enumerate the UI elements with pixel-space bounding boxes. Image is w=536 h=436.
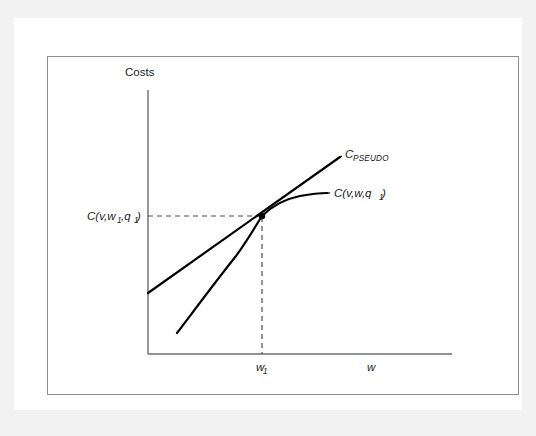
y-tick-label-cost-value: C(v,w 1 ,q 1 ) xyxy=(87,210,141,225)
pseudo-label-leader xyxy=(340,156,342,157)
long-run-cost-curve-label: C(v,w,q 1 ) xyxy=(334,187,386,202)
y-tick-label-middle: ,q xyxy=(121,210,131,222)
pseudo-cost-line xyxy=(148,157,340,293)
axes-group xyxy=(148,90,452,354)
cost-label-main: C(v,w,q xyxy=(334,187,372,199)
tangency-point-marker xyxy=(259,213,266,220)
x-axis-title: w xyxy=(367,361,376,373)
pseudo-label-subscript: PSEUDO xyxy=(353,154,389,163)
y-axis-title: Costs xyxy=(125,66,155,78)
x-tick-label-w1: w 1 xyxy=(256,361,268,376)
guide-lines-group xyxy=(148,216,262,354)
page-background: Costs w w 1 C(v,w 1 ,q 1 ) C PSEUDO C(v,… xyxy=(0,0,536,436)
cost-function-chart: Costs w w 1 C(v,w 1 ,q 1 ) C PSEUDO C(v,… xyxy=(0,0,536,436)
pseudo-cost-curve-label: C PSEUDO xyxy=(345,148,389,163)
curves-group xyxy=(148,157,340,333)
long-run-cost-curve xyxy=(177,193,327,333)
y-tick-label-prefix: C(v,w xyxy=(87,210,116,222)
x-tick-label-subscript: 1 xyxy=(263,367,268,376)
